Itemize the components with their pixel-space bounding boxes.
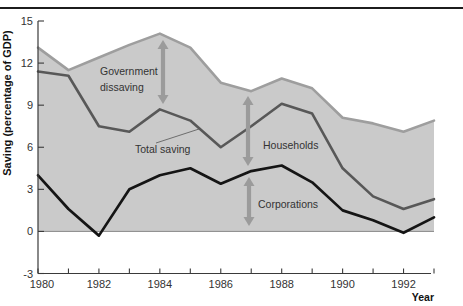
y-tick-label: 0 [27,225,33,237]
x-tick-label: 1990 [330,278,354,290]
saving-area-fill [38,34,434,232]
households-label: Households [263,139,318,151]
y-axis-title: Saving (percentage of GDP) [1,30,13,176]
x-tick-label: 1988 [269,278,293,290]
x-tick-label: 1986 [209,278,233,290]
corporations-label: Corporations [258,198,318,210]
y-tick-label: 6 [27,141,33,153]
x-tick-label: 1982 [87,278,111,290]
x-tick-label: 1992 [391,278,415,290]
x-axis-title: Year [412,291,434,303]
figure-container: 15129630-31980198219841986198819901992Go… [0,0,463,306]
y-tick-label: 3 [27,183,33,195]
y-tick-label: 12 [21,57,33,69]
government-dissaving-label: dissaving [100,81,144,93]
y-tick-label: 9 [27,99,33,111]
saving-chart: 15129630-31980198219841986198819901992Go… [0,0,463,306]
x-tick-label: 1984 [148,278,172,290]
government-dissaving-label: Government [100,65,158,77]
y-tick-label: 15 [21,15,33,27]
total-saving-label: Total saving [135,143,191,155]
x-tick-label: 1980 [30,278,54,290]
